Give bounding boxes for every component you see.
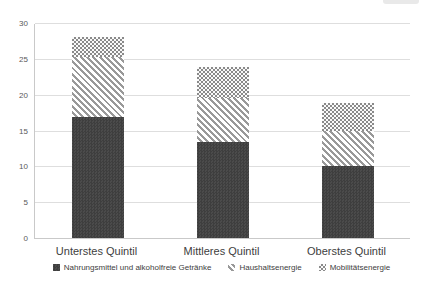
bar-segment-nahrungsmittel [72, 117, 124, 238]
bar-segment-nahrungsmittel [197, 142, 249, 238]
legend-label: Haushaltsenergie [239, 263, 301, 272]
y-axis-tick-label: 10 [0, 162, 28, 172]
legend-item-nahrungsmittel: Nahrungsmittel und alkoholfreie Getränke [53, 263, 212, 272]
scan-artifact [383, 0, 419, 4]
legend-item-mobilitaetsenergie: Mobilitätsenergie [319, 263, 390, 272]
y-axis-tick-label: 5 [0, 198, 28, 208]
category-label: Oberstes Quintil [284, 245, 409, 257]
legend-swatch-mobilitaetsenergie-icon [319, 264, 326, 271]
y-axis-tick-label: 0 [0, 234, 28, 244]
y-axis-tick-label: 15 [0, 127, 28, 137]
y-axis-tick-label: 20 [0, 91, 28, 101]
bar-segment-haushaltsenergie [197, 98, 249, 142]
category-label: Unterstes Quintil [34, 245, 159, 257]
bar-segment-haushaltsenergie [72, 57, 124, 117]
bar-2 [197, 67, 249, 238]
y-axis-tick-label: 25 [0, 55, 28, 65]
bar-segment-mobilitaetsenergie [197, 67, 249, 98]
bar-segment-haushaltsenergie [322, 131, 374, 165]
legend-label: Mobilitätsenergie [330, 263, 390, 272]
bar-3 [322, 103, 374, 238]
legend-item-haushaltsenergie: Haushaltsenergie [228, 263, 301, 272]
bar-segment-nahrungsmittel [322, 166, 374, 238]
gridline [35, 23, 410, 24]
legend-label: Nahrungsmittel und alkoholfreie Getränke [64, 263, 212, 272]
legend-swatch-haushaltsenergie-icon [228, 264, 235, 271]
legend-swatch-nahrungsmittel-icon [53, 264, 60, 271]
bar-segment-mobilitaetsenergie [72, 37, 124, 56]
bar-segment-mobilitaetsenergie [322, 103, 374, 131]
bar-1 [72, 37, 124, 238]
x-axis-line [35, 238, 410, 239]
document-page: 051015202530 Unterstes QuintilMittleres … [0, 0, 421, 290]
category-label: Mittleres Quintil [159, 245, 284, 257]
plot-area [34, 24, 410, 239]
y-axis-tick-label: 30 [0, 19, 28, 29]
legend: Nahrungsmittel und alkoholfreie Getränke… [34, 263, 409, 272]
